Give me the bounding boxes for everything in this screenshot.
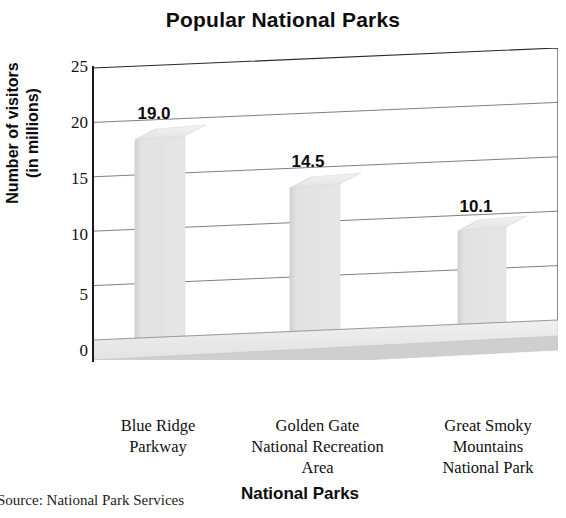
y-axis-title-line-2: (in millions) xyxy=(23,18,43,248)
y-tick-label-15: 15 xyxy=(54,169,88,189)
bar-value-label-1: 19.0 xyxy=(118,104,190,124)
category-label-2-line-3: Area xyxy=(225,457,410,478)
y-tick-label-20: 20 xyxy=(54,113,88,133)
bar-1-front xyxy=(135,136,185,360)
y-axis-line xyxy=(92,66,94,362)
y-tick-label-25: 25 xyxy=(54,57,88,77)
source-note: Source: National Park Services xyxy=(0,492,184,509)
bar-value-label-3: 10.1 xyxy=(440,197,512,217)
category-label-blue-ridge-parkway: Blue Ridge Parkway xyxy=(88,415,228,457)
y-axis-title-line-1: Number of visitors xyxy=(3,18,23,248)
y-tick-label-0: 0 xyxy=(54,341,88,361)
category-label-3-line-2: Mountains xyxy=(408,436,566,457)
category-label-2-line-1: Golden Gate xyxy=(225,415,410,436)
category-label-1-line-2: Parkway xyxy=(88,436,228,457)
y-tick-label-5: 5 xyxy=(54,285,88,305)
x-axis-title: National Parks xyxy=(170,484,430,504)
y-tick-label-10: 10 xyxy=(54,225,88,245)
category-label-golden-gate-nra: Golden Gate National Recreation Area xyxy=(225,415,410,478)
category-label-great-smoky-mountains: Great Smoky Mountains National Park xyxy=(408,415,566,478)
category-label-3-line-1: Great Smoky xyxy=(408,415,566,436)
category-label-2-line-2: National Recreation xyxy=(225,436,410,457)
category-label-1-line-1: Blue Ridge xyxy=(88,415,228,436)
y-axis-tick-labels: 25 20 15 10 5 0 xyxy=(50,0,88,518)
bar-value-label-2: 14.5 xyxy=(272,152,344,172)
category-label-3-line-3: National Park xyxy=(408,457,566,478)
bar-2-front xyxy=(290,184,340,351)
